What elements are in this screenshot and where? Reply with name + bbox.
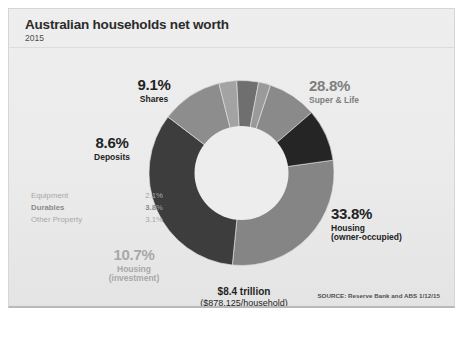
callout-shares: 9.1% Shares [117,77,191,104]
callout-housing-owner: 33.8% Housing (owner-occupied) [331,206,451,243]
callout-deposits-label: Deposits [77,153,147,163]
title-divider [9,47,454,48]
callout-shares-pct: 9.1% [117,77,191,94]
callout-super-life-pct: 28.8% [309,78,419,95]
minor-list-item-value: 3.1% [145,214,163,226]
callout-housing-owner-label: Housing (owner-occupied) [331,224,451,243]
total-net-worth-value: $8.4 trillion [159,286,329,298]
callout-super-life: 28.8% Super & Life [309,78,419,105]
callout-housing-investment-pct: 10.7% [92,247,176,264]
callout-shares-label: Shares [117,95,191,105]
minor-list-item-name: Equipment [31,190,68,202]
chart-subtitle: 2015 [25,34,229,43]
total-net-worth-block: $8.4 trillion ($878,125/household) [159,286,329,308]
callout-deposits-pct: 8.6% [77,135,147,152]
minor-list-item-name: Durables [31,202,64,214]
minor-list-item: Equipment2.1% [31,190,163,202]
per-household-value: ($878,125/household) [159,298,329,308]
minor-list-item: Durables3.8% [31,202,163,214]
minor-list-item-value: 3.8% [145,202,163,214]
minor-list-item-name: Other Property [31,214,82,226]
page-title: Australian households net worth [25,18,229,33]
callout-housing-owner-label-sub: (owner-occupied) [331,233,451,243]
callout-housing-investment-label-sub: (investment) [92,274,176,284]
callout-housing-investment: 10.7% Housing (investment) [92,247,176,284]
minor-category-list: Equipment2.1%Durables3.8%Other Property3… [31,190,163,226]
callout-deposits: 8.6% Deposits [77,135,147,162]
callout-housing-investment-label-main: Housing [117,264,151,274]
callout-housing-owner-label-main: Housing [331,223,365,233]
callout-super-life-label: Super & Life [309,96,419,106]
minor-list-item-value: 2.1% [145,190,163,202]
source-note: SOURCE: Reserve Bank and ABS 1/12/15 [317,292,440,299]
minor-list-item: Other Property3.1% [31,214,163,226]
callout-housing-owner-pct: 33.8% [331,206,451,223]
title-block: Australian households net worth 2015 [25,18,229,43]
callout-housing-investment-label: Housing (investment) [92,265,176,284]
chart-card: Australian households net worth 2015 9.1… [8,8,455,308]
donut-hole [195,126,289,220]
